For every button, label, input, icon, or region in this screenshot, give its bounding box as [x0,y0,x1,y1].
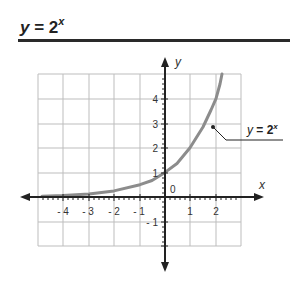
y-axis [161,57,169,272]
x-tick-label: - 1 [133,206,145,217]
x-axis-right-arrow-icon [254,193,264,201]
graph: - 4 - 3 - 2 - 1 1 2 4 3 2 1 - 1 0 x y y … [0,0,300,285]
y-tick-label: 3 [152,119,158,130]
x-tick-label: 1 [187,206,193,217]
curve-callout: y = 2x [211,122,283,140]
y-axis-up-arrow-icon [161,57,169,67]
y-tick-label: 1 [152,168,158,179]
x-axis [20,193,264,201]
x-axis-left-arrow-icon [20,193,30,201]
x-tick-label: 2 [213,206,219,217]
y-tick-label: 2 [152,143,158,154]
curve-equation-label: y = 2x [246,122,278,137]
x-tick-label: - 3 [82,206,94,217]
curve-eq-rest: = 2 [253,123,274,137]
grid [38,74,241,246]
x-axis-label: x [258,178,266,192]
x-tick-label: - 2 [108,206,120,217]
origin-label: 0 [170,184,176,195]
exponential-curve [42,74,222,196]
y-axis-down-arrow-icon [161,262,169,272]
y-tick-labels: 4 3 2 1 - 1 [146,94,158,228]
y-tick-label: 4 [152,94,158,105]
curve-eq-exp: x [272,122,278,131]
x-tick-labels: - 4 - 3 - 2 - 1 1 2 [57,206,219,217]
y-tick-label: - 1 [146,217,158,228]
y-axis-label: y [174,55,182,69]
x-tick-label: - 4 [57,206,69,217]
